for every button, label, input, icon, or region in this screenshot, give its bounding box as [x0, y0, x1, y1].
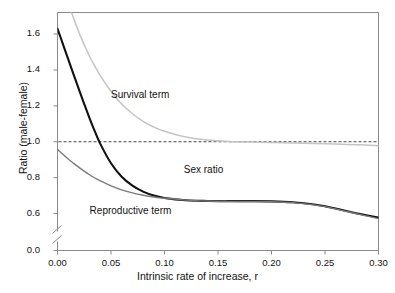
x-axis-label: Intrinsic rate of increase, r	[0, 270, 395, 282]
y-tick-label: 1.6	[14, 27, 40, 38]
y-tick-label: 0.0	[14, 244, 40, 255]
x-tick-label: 0.10	[145, 257, 185, 268]
y-tick-label: 0.8	[14, 171, 40, 182]
x-tick-label: 0.20	[252, 257, 292, 268]
chart-plot-area	[0, 0, 395, 293]
x-tick-label: 0.30	[359, 257, 395, 268]
series-label: Survival term	[111, 89, 169, 100]
y-tick-label: 1.0	[14, 135, 40, 146]
x-tick-label: 0.05	[91, 257, 131, 268]
y-tick-label: 1.2	[14, 99, 40, 110]
y-tick-label: 0.6	[14, 207, 40, 218]
x-tick-label: 0.00	[38, 257, 78, 268]
chart-figure: Ratio (male-female) Intrinsic rate of in…	[0, 0, 395, 293]
x-tick-label: 0.15	[198, 257, 238, 268]
series-label: Reproductive term	[90, 205, 172, 216]
series-label: Sex ratio	[184, 164, 223, 175]
x-tick-label: 0.25	[305, 257, 345, 268]
y-tick-label: 1.4	[14, 63, 40, 74]
